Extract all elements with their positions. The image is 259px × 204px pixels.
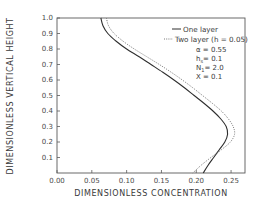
x-axis-ticks: 0.000.050.100.150.200.25 <box>49 170 239 185</box>
y-tick-label: 0.9 <box>42 30 53 38</box>
y-tick-label: 0.3 <box>42 123 53 131</box>
x-axis-title: DIMENSIONLESS CONCENTRATION <box>74 189 228 198</box>
y-axis-title: DIMENSIONLESS VERTICAL HEIGHT <box>6 17 15 174</box>
x-tick-label: 0.05 <box>84 177 100 185</box>
legend-label-one-layer: One layer <box>183 25 218 34</box>
legend-label-two-layer: Two layer (h = 0.05) <box>174 35 248 44</box>
y-tick-label: 0.7 <box>42 61 53 69</box>
x-tick-label: 0.15 <box>154 177 170 185</box>
legend: One layer Two layer (h = 0.05) <box>164 25 248 44</box>
param-alpha: α = 0.55 <box>196 46 227 54</box>
y-tick-label: 1.0 <box>42 14 53 22</box>
x-tick-label: 0.20 <box>188 177 204 185</box>
y-tick-label: 0.8 <box>42 45 53 53</box>
y-tick-label: 0.2 <box>42 138 53 146</box>
param-hs: hs= 0.1 <box>196 55 222 64</box>
concentration-profile-chart: 0.10.20.30.40.50.60.70.80.91.0 0.000.050… <box>0 0 259 204</box>
y-tick-label: 0.6 <box>42 76 54 84</box>
x-tick-label: 0.10 <box>119 177 135 185</box>
param-x: X = 0.1 <box>196 73 222 81</box>
x-tick-label: 0.00 <box>49 177 65 185</box>
y-tick-label: 0.1 <box>42 154 53 162</box>
param-n1-value: = 2.0 <box>204 64 223 72</box>
y-tick-label: 0.5 <box>42 92 53 100</box>
x-tick-label: 0.25 <box>223 177 239 185</box>
param-n1: N1= 2.0 <box>196 64 224 73</box>
param-hs-value: = 0.1 <box>203 55 222 63</box>
parameter-annotations: α = 0.55 hs= 0.1 N1= 2.0 X = 0.1 <box>196 46 227 81</box>
y-tick-label: 0.4 <box>42 107 54 115</box>
